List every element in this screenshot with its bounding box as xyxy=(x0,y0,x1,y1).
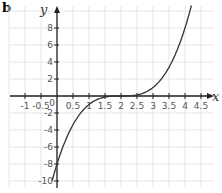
y-tick-label: -2 xyxy=(44,108,53,118)
y-axis-arrow-icon xyxy=(54,6,60,13)
tick-labels: -1-0.500.511.522.533.544.58642-2-4-6-8-1… xyxy=(21,23,209,186)
x-axis-label: x xyxy=(212,89,220,104)
y-axis-label: y xyxy=(39,2,48,17)
y-tick-label: 2 xyxy=(47,74,53,84)
x-tick-label: 4 xyxy=(182,101,188,111)
x-tick-label: 1.5 xyxy=(98,101,112,111)
y-tick-label: 8 xyxy=(47,23,53,33)
y-tick-label: -4 xyxy=(44,125,53,135)
x-tick-label: 4.5 xyxy=(194,101,208,111)
y-tick-label: 6 xyxy=(47,40,53,50)
x-tick-label: -1 xyxy=(21,101,30,111)
origin-label: 0 xyxy=(49,98,55,108)
chart: -1-0.500.511.522.533.544.58642-2-4-6-8-1… xyxy=(0,0,222,193)
x-tick-label: 3.5 xyxy=(162,101,176,111)
y-tick-label: -6 xyxy=(44,142,53,152)
x-tick-label: 3 xyxy=(150,101,156,111)
y-tick-label: -10 xyxy=(38,176,53,186)
y-tick-label: -8 xyxy=(44,159,53,169)
x-tick-label: 0.5 xyxy=(66,101,80,111)
y-tick-label: 4 xyxy=(47,57,53,67)
x-tick-label: 2 xyxy=(118,101,124,111)
x-tick-label: 2.5 xyxy=(130,101,144,111)
